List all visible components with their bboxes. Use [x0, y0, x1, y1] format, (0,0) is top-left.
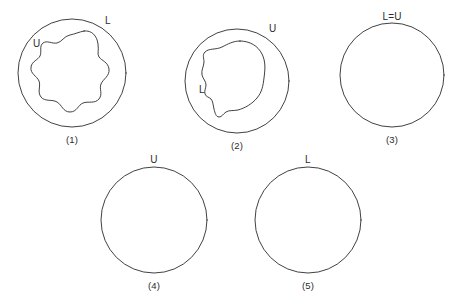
- panel-2-label-U: U: [269, 23, 276, 34]
- panel-1-inner-blob: [31, 31, 109, 112]
- panel-3-label-L-equals-U: L=U: [382, 11, 401, 22]
- panel-1-label-L: L: [105, 15, 111, 26]
- panel-4-caption: (4): [148, 280, 160, 291]
- panel-4-group: U (4): [101, 154, 207, 291]
- panel-3-caption: (3): [386, 134, 398, 145]
- panel-1-outer-circle: [18, 19, 126, 127]
- panel-2-inner-blob: [202, 41, 265, 117]
- panel-2-group: U L (2): [185, 23, 289, 151]
- figure-canvas: L U (1) U L (2) L=U (3) U (4) L (5): [0, 0, 460, 303]
- panel-5-outer-circle: [255, 167, 361, 273]
- panel-5-label-L: L: [305, 154, 311, 165]
- panel-4-label-U: U: [150, 154, 157, 165]
- panel-3-outer-circle: [340, 23, 444, 127]
- panel-2-label-L: L: [199, 84, 205, 95]
- panel-3-group: L=U (3): [340, 11, 444, 145]
- panel-2-outer-circle: [185, 29, 289, 133]
- panel-2-caption: (2): [231, 140, 243, 151]
- panel-5-group: L (5): [255, 154, 361, 291]
- panel-5-caption: (5): [302, 280, 314, 291]
- panel-1-group: L U (1): [18, 15, 126, 145]
- panel-4-outer-circle: [101, 167, 207, 273]
- panel-1-caption: (1): [66, 134, 78, 145]
- panel-1-label-U: U: [33, 38, 40, 49]
